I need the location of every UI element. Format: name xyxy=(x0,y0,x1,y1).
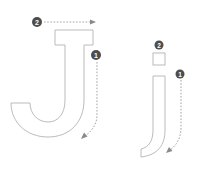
arrow-down-left-icon xyxy=(166,147,173,153)
uppercase-j-stroke-2-guide xyxy=(44,20,96,25)
arrow-right-icon xyxy=(90,20,96,25)
lowercase-j-dot-outline xyxy=(153,53,165,65)
uppercase-j-step-1-badge: 1 xyxy=(91,50,101,60)
lowercase-j-stroke-1-guide xyxy=(166,80,181,153)
uppercase-j-step-2-badge: 2 xyxy=(32,17,42,27)
uppercase-j-letter xyxy=(11,30,93,137)
uppercase-j-outline xyxy=(11,30,93,137)
svg-text:1: 1 xyxy=(178,71,182,78)
lowercase-j-letter xyxy=(141,53,165,157)
lowercase-j-stem-outline xyxy=(141,76,165,157)
letter-stroke-diagram: 2 1 1 2 xyxy=(0,0,197,171)
lowercase-j-step-2-badge: 2 xyxy=(155,41,164,50)
lowercase-j-step-1-badge: 1 xyxy=(176,70,185,79)
arrow-down-left-icon xyxy=(81,133,88,140)
svg-text:1: 1 xyxy=(94,52,98,59)
svg-text:2: 2 xyxy=(35,19,39,26)
svg-text:2: 2 xyxy=(157,42,161,49)
